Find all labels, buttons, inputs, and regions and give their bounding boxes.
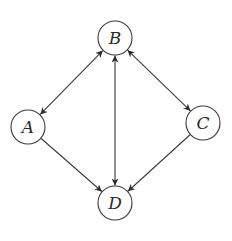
edge-a-b <box>40 51 103 115</box>
node-a: A <box>11 110 45 144</box>
edge-b-c <box>128 50 191 111</box>
node-label: A <box>20 117 34 137</box>
node-b: B <box>98 21 132 55</box>
edge-a-d <box>41 139 102 192</box>
graph-diagram: ABCD <box>0 0 232 241</box>
graph-svg: ABCD <box>0 0 232 241</box>
node-d: D <box>98 186 132 220</box>
node-label: B <box>108 28 122 48</box>
edge-c-d <box>128 135 190 191</box>
node-label: D <box>107 193 122 213</box>
edges-layer <box>40 50 190 191</box>
node-label: C <box>196 113 209 133</box>
node-c: C <box>186 106 220 140</box>
